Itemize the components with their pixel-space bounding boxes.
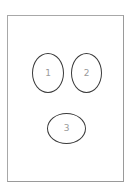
node-label-3: 3	[64, 124, 70, 133]
node-label-1: 1	[45, 69, 51, 78]
page-frame	[7, 15, 124, 182]
node-label-2: 2	[84, 69, 90, 78]
ellipse-node-3: 3	[47, 113, 86, 144]
ellipse-node-2: 2	[71, 53, 102, 93]
ellipse-node-1: 1	[32, 53, 64, 93]
